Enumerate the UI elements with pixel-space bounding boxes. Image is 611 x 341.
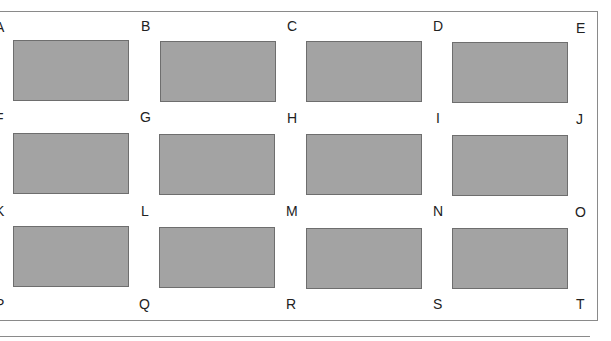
grid-cell xyxy=(452,42,568,103)
frame-bottom-border xyxy=(0,320,598,321)
grid-cell xyxy=(13,40,129,101)
grid-cell xyxy=(452,228,568,289)
grid-label: I xyxy=(436,111,440,125)
grid-label: S xyxy=(433,297,442,311)
grid-label: K xyxy=(0,204,4,218)
grid-label: T xyxy=(576,297,585,311)
grid-label: Q xyxy=(139,297,150,311)
grid-label: O xyxy=(575,205,586,219)
grid-label: A xyxy=(0,20,4,34)
grid-cell xyxy=(160,41,276,102)
grid-cell xyxy=(452,135,568,196)
grid-label: E xyxy=(576,21,585,35)
outer-divider-line xyxy=(0,336,590,337)
grid-cell xyxy=(13,133,129,194)
grid-label: G xyxy=(140,110,151,124)
grid-cell xyxy=(159,134,275,195)
grid-cell xyxy=(306,134,422,195)
grid-label: P xyxy=(0,297,4,311)
grid-label: F xyxy=(0,111,4,125)
grid-cell xyxy=(159,227,275,288)
grid-label: M xyxy=(286,204,298,218)
grid-label: D xyxy=(433,19,443,33)
grid-cell xyxy=(306,41,422,102)
grid-label: J xyxy=(576,112,583,126)
grid-label: B xyxy=(141,19,150,33)
grid-cell xyxy=(13,226,129,287)
grid-label: L xyxy=(141,204,149,218)
grid-label: C xyxy=(287,19,297,33)
grid-label: R xyxy=(286,297,296,311)
frame-top-border xyxy=(0,11,598,12)
grid-label: H xyxy=(287,111,297,125)
grid-label: N xyxy=(433,204,443,218)
grid-cell xyxy=(306,228,422,289)
frame-right-border xyxy=(597,11,598,321)
